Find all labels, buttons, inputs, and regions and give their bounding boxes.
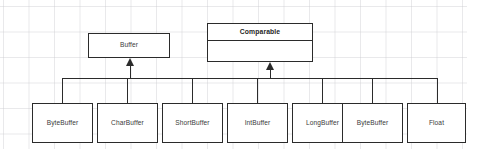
class-node-float-label: Float: [429, 120, 444, 127]
interface-node-comparable-header: Comparable: [208, 24, 312, 41]
class-node-buffer-label: Buffer: [120, 42, 138, 49]
class-node-charbuffer[interactable]: CharBuffer: [97, 103, 158, 143]
class-node-longbuffer-label: LongBuffer: [306, 120, 339, 127]
canvas-right-margin: [467, 0, 480, 157]
class-node-shortbuffer[interactable]: ShortBuffer: [162, 103, 223, 143]
drop-line-longbuffer: [322, 78, 323, 103]
riser-to-comparable: [270, 70, 271, 78]
canvas-bottom-margin: [0, 149, 480, 157]
class-node-intbuffer-label: IntBuffer: [245, 120, 271, 127]
class-node-intbuffer[interactable]: IntBuffer: [227, 103, 288, 143]
drop-line-bytebuffer-2: [372, 78, 373, 103]
interface-node-comparable[interactable]: Comparable: [207, 23, 313, 62]
class-node-float[interactable]: Float: [407, 103, 466, 143]
drop-line-shortbuffer: [192, 78, 193, 103]
interface-node-comparable-body: [208, 41, 312, 62]
diagram-canvas: Buffer Comparable ByteBuffer CharBuffer …: [0, 0, 480, 157]
class-node-bytebuffer-2[interactable]: ByteBuffer: [342, 103, 403, 143]
drop-line-charbuffer: [127, 78, 128, 103]
class-node-buffer[interactable]: Buffer: [88, 33, 170, 58]
class-node-bytebuffer-2-label: ByteBuffer: [357, 120, 389, 127]
interface-node-comparable-label: Comparable: [240, 29, 280, 36]
drop-line-intbuffer: [257, 78, 258, 103]
inheritance-bus-line: [62, 78, 437, 79]
inheritance-arrowhead-comparable: [266, 62, 274, 70]
class-node-charbuffer-label: CharBuffer: [111, 120, 144, 127]
class-node-bytebuffer-1-label: ByteBuffer: [47, 120, 79, 127]
riser-to-buffer: [130, 66, 131, 78]
class-node-bytebuffer-1[interactable]: ByteBuffer: [32, 103, 93, 143]
drop-line-float: [437, 78, 438, 103]
drop-line-bytebuffer-1: [62, 78, 63, 103]
inheritance-arrowhead-buffer: [126, 58, 134, 66]
class-node-shortbuffer-label: ShortBuffer: [175, 120, 209, 127]
